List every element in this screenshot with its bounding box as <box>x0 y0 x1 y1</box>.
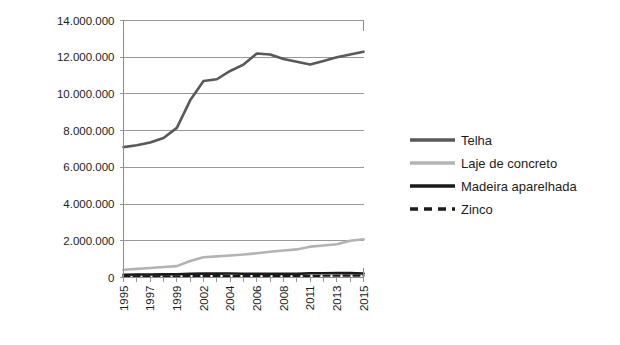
x-axis-tick-label: 1997 <box>144 286 156 312</box>
y-axis-tick-label: 14.000.000 <box>57 15 115 27</box>
x-axis-tick-label: 2013 <box>331 286 343 312</box>
series-line-2 <box>124 273 364 275</box>
series-line-3 <box>124 276 364 277</box>
x-axis-tick-label: 1999 <box>171 286 183 312</box>
x-axis-labels: 1995199719992002200420062008201120132015 <box>118 285 370 311</box>
y-axis-tick-label: 10.000.000 <box>57 88 115 100</box>
legend-label-3: Zinco <box>461 202 493 217</box>
legend-label-2: Madeira aparelhada <box>461 179 577 194</box>
y-axis-ticks <box>120 21 124 278</box>
x-axis-tick-label: 2004 <box>224 285 236 311</box>
x-axis-tick-label: 2002 <box>198 286 210 312</box>
legend-label-1: Laje de concreto <box>461 156 557 171</box>
series-line-1 <box>124 239 364 269</box>
chart-canvas: 14.000.00012.000.00010.000.0008.000.0006… <box>0 0 620 345</box>
y-axis-tick-label: 0 <box>108 272 114 284</box>
chart-legend: TelhaLaje de concretoMadeira aparelhadaZ… <box>410 133 577 217</box>
data-series <box>124 52 364 277</box>
line-chart: 14.000.00012.000.00010.000.0008.000.0006… <box>0 0 620 345</box>
y-axis-tick-label: 8.000.000 <box>63 125 114 137</box>
y-axis-tick-label: 6.000.000 <box>63 161 114 173</box>
x-axis-tick-label: 2008 <box>278 286 290 312</box>
legend-label-0: Telha <box>461 133 493 148</box>
y-axis-tick-label: 4.000.000 <box>63 198 114 210</box>
x-axis-tick-label: 2006 <box>251 286 263 312</box>
x-axis-tick-label: 2011 <box>304 286 316 311</box>
y-axis-tick-label: 2.000.000 <box>63 235 114 247</box>
y-axis-tick-label: 12.000.000 <box>57 51 115 63</box>
x-axis-ticks <box>124 278 364 282</box>
series-line-0 <box>124 52 364 147</box>
x-axis-tick-label: 1995 <box>118 286 130 312</box>
y-axis-labels: 14.000.00012.000.00010.000.0008.000.0006… <box>57 15 115 284</box>
x-axis-tick-label: 2015 <box>358 286 370 312</box>
